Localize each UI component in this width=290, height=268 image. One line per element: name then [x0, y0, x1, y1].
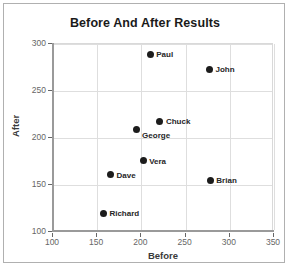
y-tick-label: 200 [20, 132, 46, 142]
chart-container: Before And After Results PaulJohnChuckGe… [3, 3, 285, 263]
x-tick-mark [96, 233, 97, 237]
data-point-label: Chuck [166, 117, 190, 126]
x-tick-label: 150 [76, 237, 116, 247]
x-tick-mark [185, 233, 186, 237]
y-tick-mark [48, 137, 52, 138]
x-tick-label: 100 [32, 237, 72, 247]
y-tick-mark [48, 184, 52, 185]
data-point-label: Dave [116, 170, 135, 179]
y-tick-label: 300 [20, 38, 46, 48]
y-tick-label: 150 [20, 179, 46, 189]
y-axis-title: After [10, 115, 21, 137]
data-point[interactable] [156, 118, 163, 125]
data-point-label: Brian [216, 176, 236, 185]
x-tick-mark [273, 233, 274, 237]
y-tick-label: 100 [20, 226, 46, 236]
data-point[interactable] [133, 126, 140, 133]
y-tick-mark [48, 231, 52, 232]
gridline-horizontal [53, 44, 272, 45]
gridline-vertical [274, 44, 275, 230]
x-tick-label: 250 [165, 237, 205, 247]
y-tick-mark [48, 43, 52, 44]
data-point[interactable] [206, 66, 213, 73]
data-point[interactable] [140, 157, 147, 164]
data-point-label: George [142, 130, 170, 139]
y-tick-mark [48, 90, 52, 91]
gridline-vertical [97, 44, 98, 230]
y-tick-label: 250 [20, 85, 46, 95]
y-axis-line [52, 43, 54, 232]
x-tick-mark [229, 233, 230, 237]
data-point[interactable] [107, 171, 114, 178]
gridline-horizontal [53, 91, 272, 92]
gridline-vertical [186, 44, 187, 230]
data-point-label: Richard [109, 209, 139, 218]
x-tick-mark [52, 233, 53, 237]
x-axis-line [52, 230, 274, 232]
data-point-label: Vera [149, 156, 166, 165]
data-point[interactable] [100, 210, 107, 217]
data-point-label: Paul [156, 50, 173, 59]
x-tick-label: 300 [209, 237, 249, 247]
chart-title: Before And After Results [4, 16, 286, 30]
x-axis-title: Before [52, 250, 274, 261]
gridline-horizontal [53, 185, 272, 186]
data-point-label: John [215, 65, 234, 74]
x-tick-mark [140, 233, 141, 237]
data-point[interactable] [147, 51, 154, 58]
x-tick-label: 350 [253, 237, 290, 247]
data-point[interactable] [207, 177, 214, 184]
x-tick-label: 200 [120, 237, 160, 247]
plot-area: PaulJohnChuckGeorgeVeraDaveBrianRichard [52, 43, 273, 231]
